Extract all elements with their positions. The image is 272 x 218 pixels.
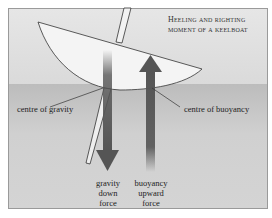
gravity-label-line: force (92, 198, 124, 208)
buoyancy-leader-line (152, 88, 180, 107)
diagram-title: Heeling and righting moment of a keelboa… (168, 15, 248, 35)
title-line-2: moment of a keelboat (168, 25, 248, 35)
gravity-force-label: gravity down force (92, 178, 124, 208)
mast (116, 8, 131, 43)
gravity-label-line: down (92, 188, 124, 198)
buoyancy-label-line: upward (131, 188, 171, 198)
buoyancy-label-line: buoyancy (131, 178, 171, 188)
title-line-1: Heeling and righting (168, 15, 248, 25)
centre-of-gravity-label: centre of gravity (17, 104, 73, 114)
centre-of-buoyancy-label: centre of buoyancy (184, 104, 249, 114)
buoyancy-force-label: buoyancy upward force (131, 178, 171, 208)
gravity-label-line: gravity (92, 178, 124, 188)
buoyancy-label-line: force (131, 198, 171, 208)
